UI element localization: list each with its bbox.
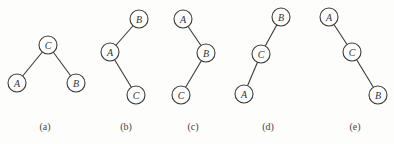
- tree-edge: [115, 60, 132, 88]
- tree-edge: [53, 52, 70, 76]
- tree-node-b: B: [197, 44, 215, 62]
- tree-c: ABC(c): [172, 10, 215, 133]
- tree-edge: [357, 60, 374, 88]
- tree-d: BCA(d): [235, 8, 290, 133]
- tree-node-b: B: [272, 8, 290, 26]
- node-label: B: [203, 48, 209, 59]
- tree-edge: [334, 25, 347, 45]
- node-label: B: [375, 90, 381, 101]
- tree-a: CAB(a): [8, 36, 85, 133]
- node-label: C: [258, 49, 265, 60]
- node-label: C: [45, 40, 52, 51]
- tree-node-c: C: [343, 43, 361, 61]
- tree-caption: (d): [262, 121, 274, 133]
- tree-edge: [265, 25, 276, 46]
- binary-trees-figure: CAB(a)BAC(b)ABC(c)BCA(d)ACB(e): [0, 0, 394, 144]
- node-label: A: [13, 78, 21, 89]
- node-label: C: [133, 90, 140, 101]
- tree-node-c: C: [39, 36, 57, 54]
- tree-node-a: A: [8, 74, 26, 92]
- tree-node-b: B: [67, 74, 85, 92]
- node-label: A: [325, 12, 333, 23]
- tree-node-a: A: [174, 10, 192, 28]
- tree-node-c: C: [252, 45, 270, 63]
- tree-edge: [23, 52, 43, 76]
- tree-caption: (e): [349, 121, 360, 133]
- tree-edge: [116, 26, 133, 45]
- node-label: B: [278, 12, 284, 23]
- node-label: B: [73, 78, 79, 89]
- tree-node-a: A: [320, 8, 338, 26]
- node-label: C: [349, 47, 356, 58]
- tree-edge: [186, 61, 202, 88]
- node-label: C: [178, 90, 185, 101]
- node-label: A: [179, 14, 187, 25]
- tree-e: ACB(e): [320, 8, 387, 133]
- tree-edge: [188, 26, 201, 45]
- tree-node-c: C: [127, 86, 145, 104]
- tree-node-a: A: [235, 85, 253, 103]
- tree-node-b: B: [369, 86, 387, 104]
- node-label: A: [240, 89, 248, 100]
- tree-node-c: C: [172, 86, 190, 104]
- tree-edge: [248, 62, 258, 85]
- tree-caption: (a): [39, 121, 50, 133]
- tree-caption: (b): [120, 121, 132, 133]
- tree-node-a: A: [101, 43, 119, 61]
- tree-b: BAC(b): [101, 10, 148, 133]
- tree-caption: (c): [187, 121, 198, 133]
- tree-node-b: B: [130, 10, 148, 28]
- node-label: A: [106, 47, 114, 58]
- node-label: B: [136, 14, 142, 25]
